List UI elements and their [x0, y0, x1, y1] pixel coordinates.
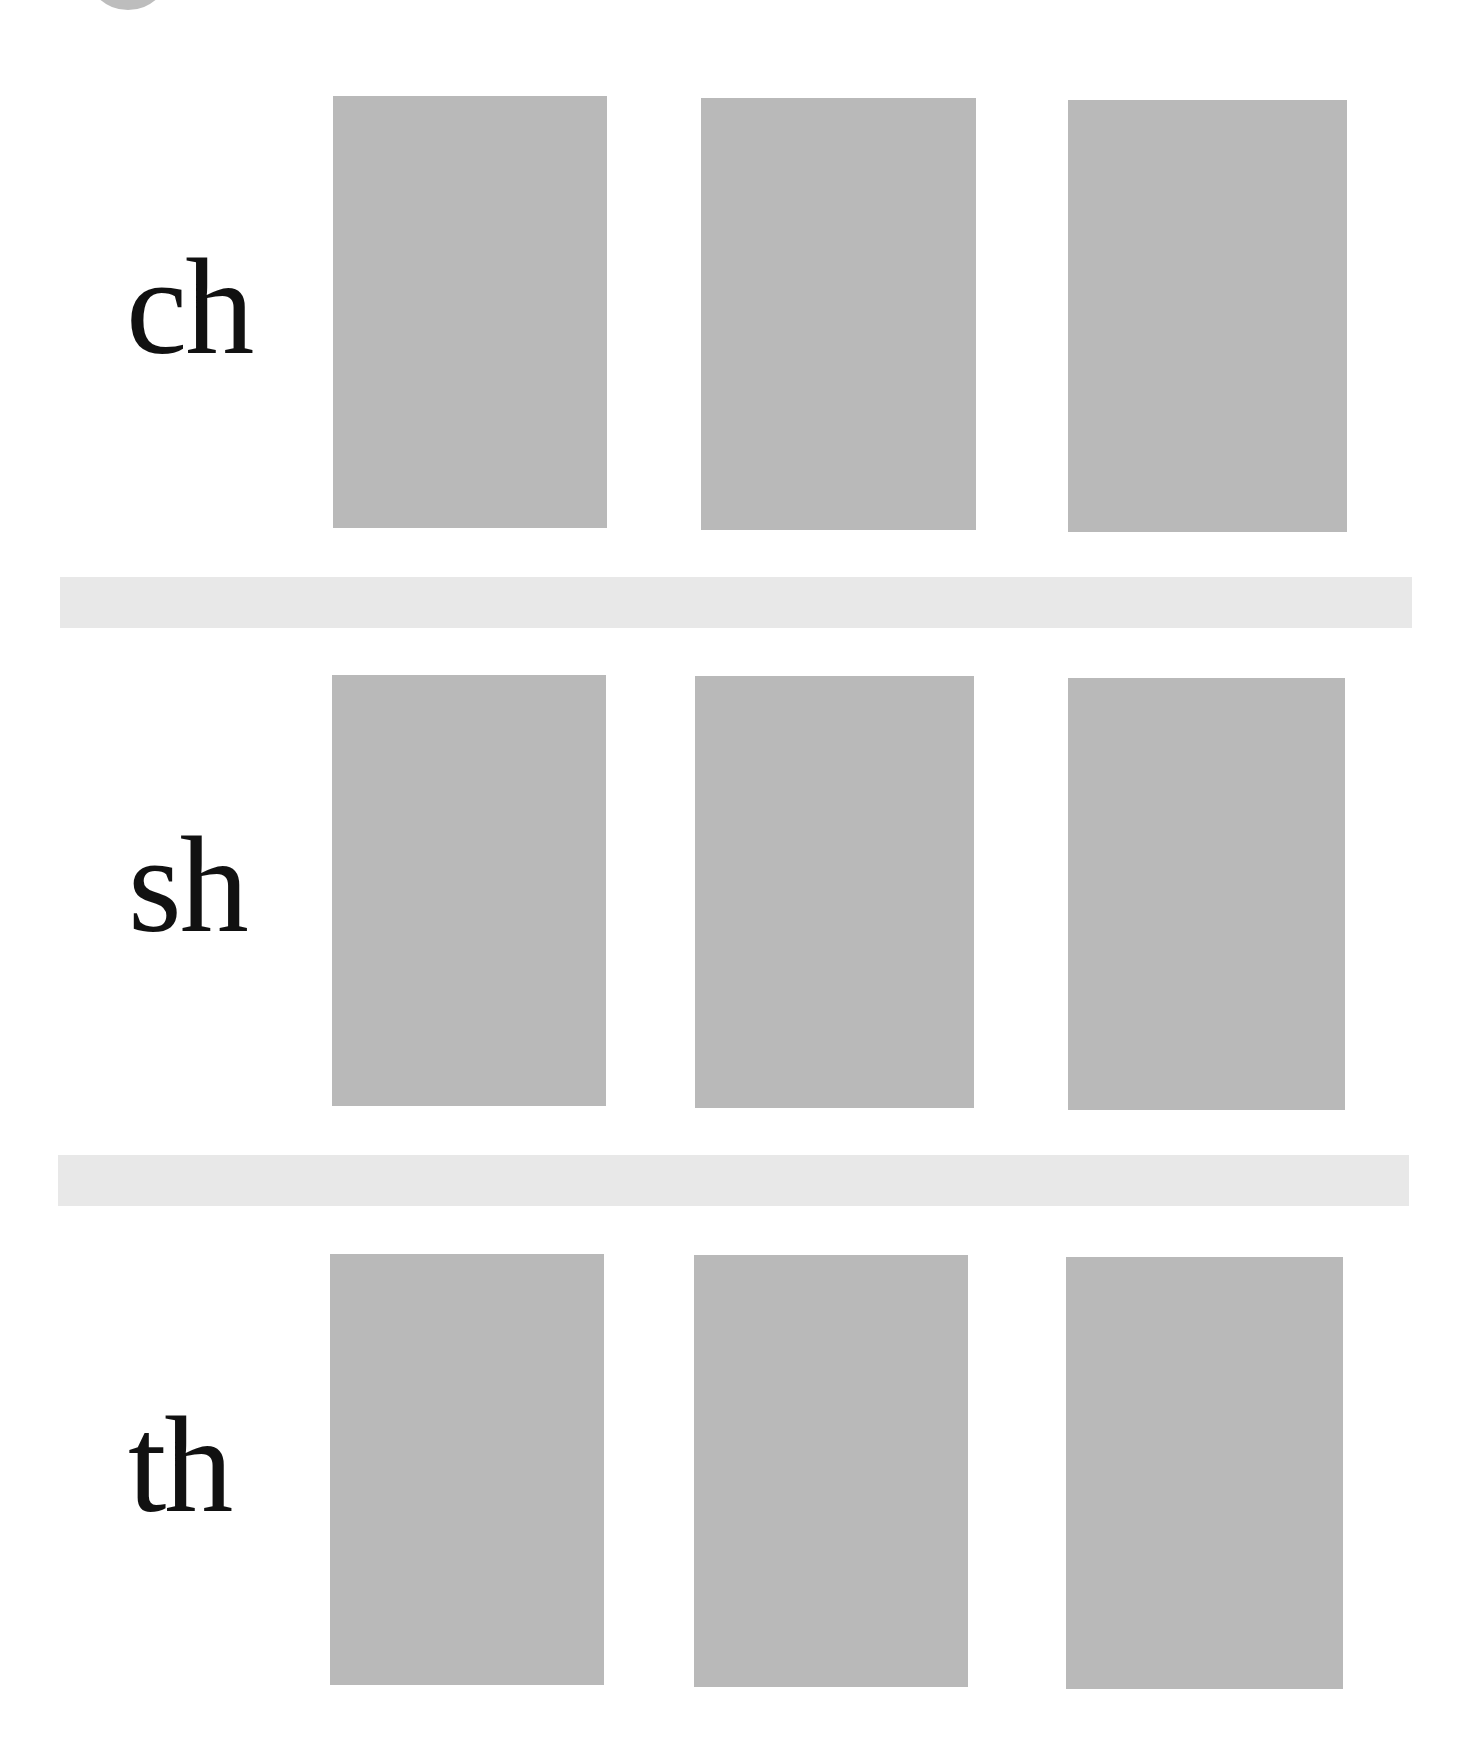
- picture-card-slot[interactable]: [330, 1254, 604, 1685]
- picture-card-slot[interactable]: [695, 676, 974, 1108]
- picture-card-slot[interactable]: [1066, 1257, 1343, 1689]
- top-circle-decoration: [86, 0, 170, 10]
- picture-card-slot[interactable]: [701, 98, 976, 530]
- row-label-th: th: [128, 1396, 231, 1534]
- picture-card-slot[interactable]: [1068, 678, 1345, 1110]
- picture-card-slot[interactable]: [333, 96, 607, 528]
- picture-card-slot[interactable]: [694, 1255, 968, 1687]
- picture-card-slot[interactable]: [332, 675, 606, 1106]
- row-label-ch: ch: [126, 238, 252, 376]
- row-label-sh: sh: [128, 816, 247, 954]
- picture-card-slot[interactable]: [1068, 100, 1347, 532]
- row-separator: [60, 577, 1412, 628]
- row-separator: [58, 1155, 1409, 1206]
